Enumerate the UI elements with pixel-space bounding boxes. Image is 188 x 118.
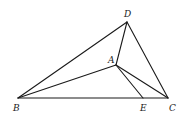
segment-AE — [116, 65, 143, 98]
label-point-D: D — [123, 9, 131, 19]
label-point-E: E — [139, 103, 147, 113]
label-point-C: C — [169, 103, 176, 113]
geometry-diagram: D A B E C — [0, 0, 188, 118]
point-labels: D A B E C — [12, 9, 176, 113]
segment-BA — [18, 65, 116, 98]
label-point-A: A — [107, 55, 115, 65]
segment-AC — [116, 65, 168, 98]
label-point-B: B — [12, 103, 20, 113]
segments — [18, 22, 168, 98]
